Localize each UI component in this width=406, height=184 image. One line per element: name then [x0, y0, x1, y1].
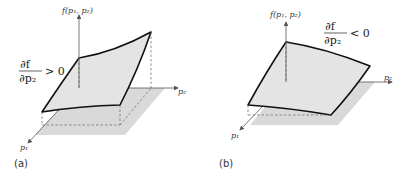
svg-text:> 0: > 0	[45, 65, 65, 78]
svg-text:∂f: ∂f	[325, 20, 336, 33]
derivative-label-a: ∂f ∂p₂ > 0	[19, 58, 65, 85]
p2-axis-label-b: p₂	[384, 73, 392, 82]
p2-axis-label-a: p₂	[178, 87, 186, 96]
panel-b: f(p₁, p₂) p₂ p₁ ∂f ∂p₂ < 0	[231, 10, 392, 140]
f-axis-label-b: f(p₁, p₂)	[269, 10, 301, 19]
p1-axis-label-a: p₁	[20, 143, 28, 152]
panel-a: f(p₁, p₂) p₂ p₁ ∂f ∂p₂ > 0	[19, 6, 186, 152]
panel-caption-b: (b)	[219, 158, 233, 169]
svg-text:< 0: < 0	[350, 27, 370, 40]
svg-text:∂p₂: ∂p₂	[324, 34, 341, 47]
derivative-label-b: ∂f ∂p₂ < 0	[324, 20, 370, 47]
svg-text:∂p₂: ∂p₂	[19, 72, 36, 85]
figure-canvas: f(p₁, p₂) p₂ p₁ ∂f ∂p₂ > 0 f(p₁, p₂) p₂ …	[0, 0, 406, 184]
f-axis-label-a: f(p₁, p₂)	[61, 6, 93, 15]
p1-axis-label-b: p₁	[231, 131, 239, 140]
panel-caption-a: (a)	[14, 158, 28, 169]
svg-text:∂f: ∂f	[20, 58, 31, 71]
